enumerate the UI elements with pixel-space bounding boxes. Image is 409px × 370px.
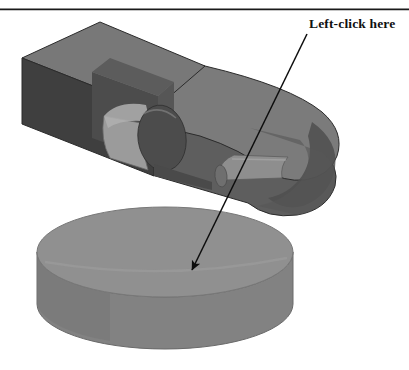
- disc-top-face[interactable]: [37, 207, 293, 297]
- upper-bracket-body[interactable]: [22, 22, 339, 216]
- figure-artwork: [0, 0, 409, 370]
- bracket-peg-highlight: [232, 159, 286, 160]
- lower-disc-part[interactable]: [37, 207, 293, 349]
- figure-root: Left-click here: [0, 0, 409, 370]
- callout-label: Left-click here: [309, 17, 395, 31]
